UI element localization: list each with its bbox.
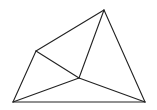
edge-top-center xyxy=(79,10,104,78)
edge-top-bottom_right xyxy=(104,10,145,102)
edge-left-center xyxy=(36,51,79,78)
diagram-canvas xyxy=(0,0,157,110)
edge-center-bottom_right xyxy=(79,78,145,102)
edge-center-bottom_left xyxy=(13,78,79,102)
geometric-figure xyxy=(0,0,157,110)
edge-top-left xyxy=(36,10,104,51)
